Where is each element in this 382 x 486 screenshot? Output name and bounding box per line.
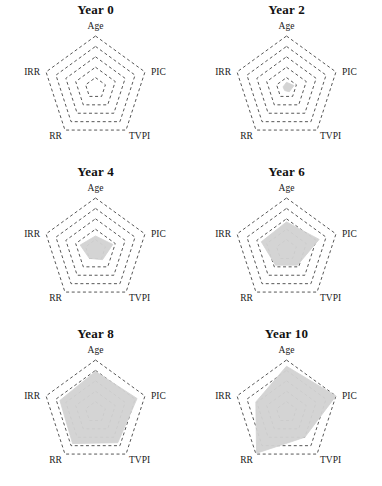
axis-label-rr: RR	[240, 131, 253, 141]
axis-label-tvpi: TVPI	[320, 131, 341, 141]
axis-label-irr: IRR	[24, 391, 41, 401]
axis-label-tvpi: TVPI	[129, 455, 150, 465]
axis-label-pic: PIC	[151, 391, 166, 401]
radar-plot: AgePICTVPIRRIRR	[191, 0, 382, 162]
axis-label-tvpi: TVPI	[320, 455, 341, 465]
radar-plot: AgePICTVPIRRIRR	[191, 162, 382, 324]
axis-label-age: Age	[88, 21, 104, 31]
grid-ring	[86, 78, 106, 97]
radar-panel: Year 4AgePICTVPIRRIRR	[0, 162, 191, 324]
axis-label-age: Age	[279, 345, 295, 355]
grid-ring	[66, 57, 125, 113]
radar-panel: Year 2AgePICTVPIRRIRR	[191, 0, 382, 162]
radar-plot: AgePICTVPIRRIRR	[191, 324, 382, 486]
axis-label-pic: PIC	[151, 67, 166, 77]
radar-plot: AgePICTVPIRRIRR	[0, 324, 191, 486]
axis-label-irr: IRR	[215, 67, 232, 77]
radar-chart-grid: Year 0AgePICTVPIRRIRRYear 2AgePICTVPIRRI…	[0, 0, 382, 486]
radar-panel: Year 8AgePICTVPIRRIRR	[0, 324, 191, 486]
data-polygon	[283, 82, 294, 92]
radar-panel: Year 10AgePICTVPIRRIRR	[191, 324, 382, 486]
grid-ring	[46, 36, 145, 130]
axis-label-irr: IRR	[24, 67, 41, 77]
axis-label-rr: RR	[240, 455, 253, 465]
axis-label-pic: PIC	[342, 391, 357, 401]
axis-label-pic: PIC	[342, 229, 357, 239]
radar-plot: AgePICTVPIRRIRR	[0, 0, 191, 162]
radar-panel: Year 6AgePICTVPIRRIRR	[191, 162, 382, 324]
axis-label-age: Age	[279, 21, 295, 31]
axis-label-age: Age	[279, 183, 295, 193]
axis-label-tvpi: TVPI	[320, 293, 341, 303]
data-polygon	[60, 371, 137, 443]
radar-plot: AgePICTVPIRRIRR	[0, 162, 191, 324]
axis-label-pic: PIC	[151, 229, 166, 239]
axis-label-rr: RR	[49, 455, 62, 465]
axis-label-irr: IRR	[215, 229, 232, 239]
axis-label-irr: IRR	[24, 229, 41, 239]
grid-ring	[76, 67, 116, 105]
axis-label-tvpi: TVPI	[129, 131, 150, 141]
axis-label-age: Age	[88, 345, 104, 355]
axis-label-tvpi: TVPI	[129, 293, 150, 303]
axis-label-pic: PIC	[342, 67, 357, 77]
axis-label-rr: RR	[240, 293, 253, 303]
axis-label-age: Age	[88, 183, 104, 193]
axis-label-rr: RR	[49, 293, 62, 303]
axis-label-rr: RR	[49, 131, 62, 141]
radar-panel: Year 0AgePICTVPIRRIRR	[0, 0, 191, 162]
axis-label-irr: IRR	[215, 391, 232, 401]
data-polygon	[261, 222, 319, 265]
data-polygon	[80, 236, 113, 260]
data-polygon	[256, 366, 336, 453]
